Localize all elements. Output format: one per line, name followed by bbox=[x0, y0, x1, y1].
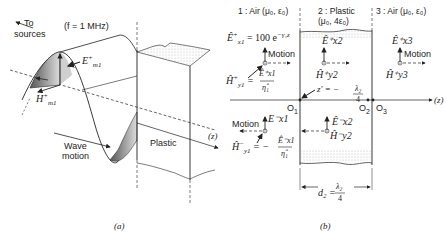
region-2-label-params: (μ₀, 4ε₀) bbox=[318, 17, 349, 26]
z-axis-label-b: (z) bbox=[434, 96, 444, 105]
motion-label-1: Motion bbox=[268, 50, 295, 59]
z-prime-label: z' = − bbox=[317, 85, 339, 94]
z-prime-numerator: λ₂ bbox=[355, 85, 361, 93]
hy2-plus-label: Ĥ⁺y2 bbox=[316, 70, 338, 80]
thickness-denominator: 4 bbox=[338, 195, 342, 203]
frequency-label: (f = 1 MHz) bbox=[64, 22, 109, 31]
wave-motion-label: Wave bbox=[64, 142, 87, 151]
incident-e-equation: Ê+x1 = 100 e−γ₁z bbox=[227, 33, 290, 43]
hy1-plus-denominator: η̂₁ bbox=[262, 84, 269, 92]
plastic-label: Plastic bbox=[150, 139, 177, 148]
e-field-label: E+m1 bbox=[82, 56, 101, 66]
region-1-label: 1 : Air (μ₀, ε₀) bbox=[238, 7, 288, 16]
ex2-minus-label: Ê⁻x2 bbox=[332, 117, 353, 127]
diagram-lines bbox=[0, 0, 446, 239]
region-2-label: 2 : Plastic bbox=[318, 7, 355, 16]
ex3-plus-label: Ê⁺x3 bbox=[392, 36, 413, 46]
hy1-plus-label: Ĥ+y1 = bbox=[226, 76, 254, 86]
h-field-label: H+m1 bbox=[36, 94, 57, 104]
caption-b: (b) bbox=[320, 222, 331, 231]
hy1-plus-numerator: Ê⁺x1 bbox=[259, 70, 275, 78]
origin-2-label: O2 bbox=[359, 104, 370, 113]
ex2-plus-label: Ê⁺x2 bbox=[322, 36, 343, 46]
region-3-label: 3 : Air (μ₀, ε₀) bbox=[376, 7, 426, 16]
motion-label-3: Motion bbox=[404, 50, 431, 59]
z-axis-label-a: (z) bbox=[208, 132, 218, 141]
hy2-minus-label: Ĥ⁻y2 bbox=[330, 131, 352, 141]
motion-label-reflected: Motion bbox=[232, 120, 259, 129]
caption-a: (a) bbox=[114, 222, 125, 231]
hy1-minus-denominator: η̂₁ bbox=[281, 150, 288, 158]
thickness-numerator: λ₂ bbox=[336, 183, 342, 191]
to-sources-label-2: sources bbox=[14, 30, 46, 39]
thickness-label: d₂ = bbox=[318, 188, 336, 198]
origin-3-label: O3 bbox=[376, 104, 387, 113]
to-sources-label: To bbox=[24, 19, 34, 28]
wave-motion-label-2: motion bbox=[62, 152, 89, 161]
hy1-minus-numerator: Ê⁻x1 bbox=[278, 137, 294, 145]
ex1-minus-label: E⁻x1 bbox=[268, 114, 289, 124]
origin-1-label: O1 bbox=[287, 104, 298, 113]
hy3-plus-label: Ĥ⁺y3 bbox=[386, 70, 408, 80]
hy1-minus-label: Ĥ−y1 = − bbox=[232, 142, 269, 152]
